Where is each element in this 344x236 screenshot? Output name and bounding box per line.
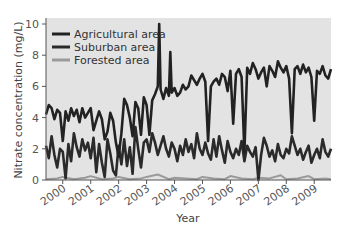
- y-axis-title: Nitrate concentration (mg/L): [12, 21, 25, 178]
- y-axis-ticks: 0246810: [25, 18, 46, 187]
- x-axis-title: Year: [175, 212, 200, 225]
- y-tick-label: 2: [32, 143, 39, 156]
- legend-label-suburban: Suburban area: [74, 41, 155, 54]
- nitrate-line-chart: 0246810 20002001200220032004200520062007…: [0, 0, 344, 236]
- x-tick-label: 2007: [234, 182, 264, 209]
- y-tick-label: 8: [32, 49, 39, 62]
- x-tick-label: 2008: [262, 182, 292, 209]
- y-tick-label: 10: [25, 18, 39, 31]
- x-tick-label: 2003: [122, 182, 152, 209]
- y-tick-label: 4: [32, 112, 39, 125]
- x-tick-label: 2000: [38, 182, 68, 209]
- x-tick-label: 2006: [206, 182, 236, 209]
- x-tick-label: 2002: [94, 182, 124, 209]
- x-tick-label: 2009: [290, 182, 320, 209]
- x-tick-label: 2004: [150, 182, 180, 209]
- legend: Agricultural area Suburban area Forested…: [52, 28, 166, 67]
- y-tick-label: 0: [32, 174, 39, 187]
- x-tick-label: 2005: [178, 182, 208, 209]
- x-tick-label: 2001: [66, 182, 96, 209]
- y-tick-label: 6: [32, 80, 39, 93]
- x-axis-ticks: 2000200120022003200420052006200720082009: [38, 180, 320, 209]
- legend-label-agricultural: Agricultural area: [74, 28, 166, 41]
- legend-label-forested: Forested area: [74, 54, 150, 67]
